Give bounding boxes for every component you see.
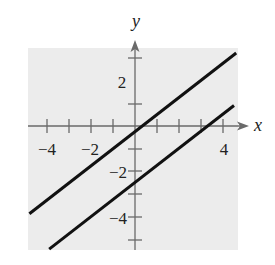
x-axis-label: x [253,115,262,135]
x-tick-label-neg4: −4 [38,140,57,159]
x-tick-label-4: 4 [220,140,229,159]
y-tick-label-2: 2 [118,73,127,92]
y-tick-label-neg2: −2 [109,163,127,182]
y-axis-label: y [130,11,140,31]
y-tick-label-neg4: −4 [109,209,128,228]
x-tick-label-neg2: −2 [81,140,99,159]
coordinate-graph: −4 −2 4 2 −2 −4 x y [0,0,275,265]
